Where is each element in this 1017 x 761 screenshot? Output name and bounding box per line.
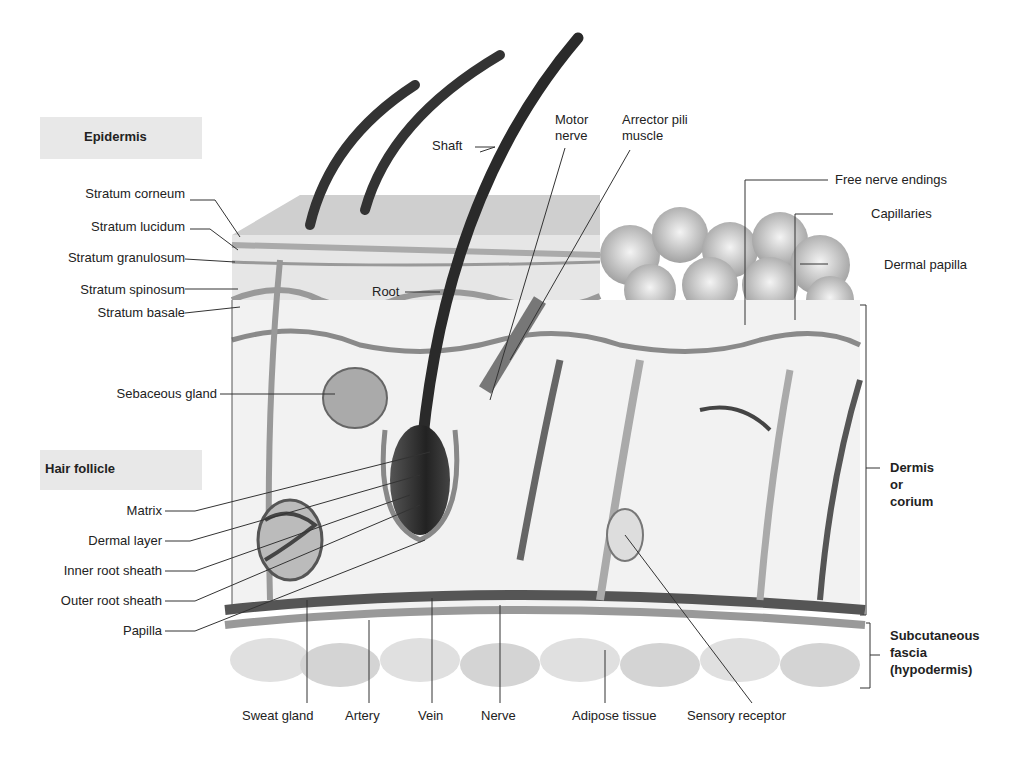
header-text: Epidermis	[84, 129, 147, 144]
label-stratum-granulosum: Stratum granulosum	[68, 250, 185, 266]
label-adipose-tissue: Adipose tissue	[572, 708, 657, 724]
label-sebaceous-gland: Sebaceous gland	[117, 386, 217, 402]
label-motor-nerve-line1: Motor	[555, 112, 588, 128]
skin-illustration	[0, 0, 1017, 761]
label-motor-nerve-line2: nerve	[555, 128, 588, 144]
label-capillaries: Capillaries	[871, 206, 932, 222]
label-dermal-papilla: Dermal papilla	[884, 257, 967, 273]
label-dermis-line3: corium	[890, 494, 933, 510]
section-header-hair-follicle: Hair follicle	[40, 450, 202, 490]
label-dermis-line1: Dermis	[890, 460, 934, 476]
label-stratum-lucidum: Stratum lucidum	[91, 219, 185, 235]
label-sweat-gland: Sweat gland	[242, 708, 314, 724]
adipose-tissue	[230, 638, 860, 687]
label-stratum-spinosum: Stratum spinosum	[80, 282, 185, 298]
label-stratum-basale: Stratum basale	[98, 305, 185, 321]
label-inner-root-sheath: Inner root sheath	[64, 563, 162, 579]
label-subcutaneous-line1: Subcutaneous	[890, 628, 980, 644]
section-header-epidermis: Epidermis	[40, 117, 202, 159]
label-vein: Vein	[418, 708, 443, 724]
label-papilla: Papilla	[123, 623, 162, 639]
label-shaft: Shaft	[432, 138, 462, 154]
label-root: Root	[372, 284, 399, 300]
label-arrector-pili-line2: muscle	[622, 128, 663, 144]
header-text: Hair follicle	[45, 461, 115, 476]
label-subcutaneous-line3: (hypodermis)	[890, 662, 972, 678]
label-dermis-line2: or	[890, 477, 903, 493]
label-nerve: Nerve	[481, 708, 516, 724]
label-outer-root-sheath: Outer root sheath	[61, 593, 162, 609]
label-stratum-corneum: Stratum corneum	[85, 186, 185, 202]
label-subcutaneous-line2: fascia	[890, 645, 927, 661]
label-sensory-receptor: Sensory receptor	[687, 708, 786, 724]
label-matrix: Matrix	[127, 503, 162, 519]
label-arrector-pili-line1: Arrector pili	[622, 112, 688, 128]
label-dermal-layer: Dermal layer	[88, 533, 162, 549]
label-free-nerve-endings: Free nerve endings	[835, 172, 947, 188]
label-artery: Artery	[345, 708, 380, 724]
